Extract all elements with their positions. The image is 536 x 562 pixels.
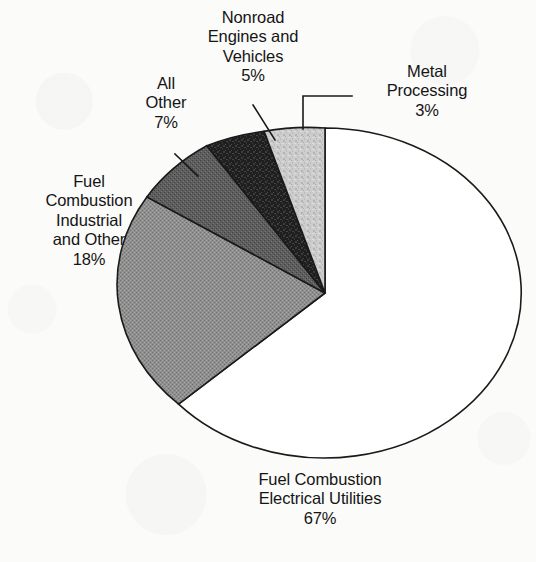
slice-label-all-other: All Other 7%: [118, 74, 214, 132]
leader-line-metal-processing: [303, 96, 352, 129]
slice-label-fuel-combustion-electrical-utilities: Fuel Combustion Electrical Utilities 67%: [214, 470, 426, 528]
slice-label-metal-processing: Metal Processing 3%: [352, 62, 502, 120]
slice-label-fuel-combustion-industrial-and-other: Fuel Combustion Industrial and Other 18%: [6, 172, 172, 269]
pie-chart-figure: Metal Processing 3% Nonroad Engines and …: [0, 0, 536, 562]
